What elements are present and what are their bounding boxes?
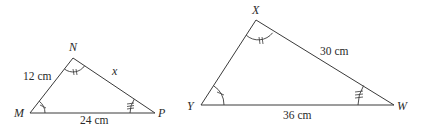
vertex-label-x: X — [251, 3, 260, 17]
angle-p-tick-1 — [127, 103, 134, 104]
side-xw-length: 30 cm — [320, 45, 348, 57]
similar-triangles-diagram: M N P 12 cm x 24 cm X Y W 30 cm 36 cm — [0, 0, 423, 124]
angle-p-tick-3 — [127, 108, 134, 109]
vertex-label-n: N — [68, 40, 78, 54]
angle-w-arc — [358, 86, 364, 105]
side-yw-length: 36 cm — [283, 109, 311, 121]
angle-w-tick-3 — [355, 97, 363, 98]
side-mp-length: 24 cm — [80, 114, 108, 124]
angle-y-arc — [214, 86, 225, 105]
vertex-label-m: M — [13, 106, 25, 120]
angle-x-tick-2 — [262, 37, 263, 44]
angle-n-tick-2 — [76, 69, 77, 75]
vertex-label-p: P — [157, 106, 166, 120]
vertex-label-y: Y — [187, 99, 195, 113]
angle-n-arc — [64, 66, 84, 72]
side-mn-length: 12 cm — [23, 70, 51, 82]
triangle-xyw: X Y W 30 cm 36 cm — [187, 3, 408, 121]
triangle-mnp: M N P 12 cm x 24 cm — [13, 40, 166, 124]
side-np-length: x — [111, 64, 118, 78]
angle-x-tick-1 — [259, 37, 260, 44]
triangle-xyw-outline — [201, 20, 394, 105]
vertex-label-w: W — [397, 99, 408, 113]
angle-w-tick-2 — [355, 94, 363, 95]
triangle-mnp-outline — [30, 58, 155, 113]
angle-n-tick-1 — [73, 69, 74, 75]
angle-p-tick-2 — [127, 106, 134, 107]
angle-w-tick-1 — [355, 91, 363, 92]
